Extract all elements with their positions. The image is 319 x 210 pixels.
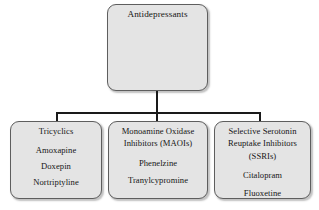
root-node-antidepressants[interactable]: Antidepressants <box>107 4 208 91</box>
branch-connector-tricyclics <box>56 112 58 121</box>
branch-connector-ssris <box>259 112 261 121</box>
branch-heading-ssris-line-1: Selective Serotonin <box>228 126 296 136</box>
antidepressants-classification-diagram: Antidepressants Tricyclics Amoxapine Dox… <box>0 0 319 210</box>
branch-bus-horizontal <box>56 112 261 114</box>
branch-heading-ssris-line-3: (SSRIs) <box>249 151 277 161</box>
branch-node-ssris[interactable]: Selective Serotonin Reuptake Inhibitors … <box>214 121 311 199</box>
branch-heading-ssris-line-2: Reuptake Inhibitors <box>228 138 297 148</box>
drug-item: Doxepin <box>41 161 71 171</box>
trunk-connector-vertical <box>156 91 158 114</box>
drug-item: Amoxapine <box>36 145 77 155</box>
branch-node-maois[interactable]: Monoamine Oxidase Inhibitors (MAOIs) Phe… <box>108 121 208 199</box>
drug-item: Phenelzine <box>139 158 177 168</box>
branch-heading-tricyclics: Tricyclics <box>39 126 74 136</box>
drug-item: Tranylcypromine <box>128 175 188 185</box>
branch-connector-maois <box>156 112 158 121</box>
branch-heading-maois-line-1: Monoamine Oxidase <box>122 126 195 136</box>
branch-heading-maois-line-2: Inhibitors (MAOIs) <box>124 138 192 148</box>
branch-node-tricyclics[interactable]: Tricyclics Amoxapine Doxepin Nortriptyli… <box>10 121 102 199</box>
drug-item: Fluoxetine <box>244 188 281 198</box>
drug-item: Citalopram <box>243 170 282 180</box>
drug-item: Nortriptyline <box>33 177 79 187</box>
root-node-label: Antidepressants <box>127 9 187 20</box>
